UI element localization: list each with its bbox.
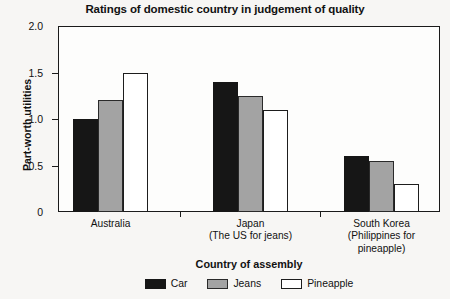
bar-japan-car (213, 82, 238, 212)
chart-title: Ratings of domestic country in judgement… (0, 3, 450, 15)
legend-item-jeans: Jeans (207, 278, 261, 289)
legend-label: Pineapple (307, 278, 353, 289)
legend-swatch-jeans (207, 279, 228, 289)
chart-legend: CarJeansPineapple (58, 278, 440, 289)
x-tick-mark (320, 212, 321, 217)
legend-label: Car (171, 278, 188, 289)
x-group-label-sub: (Philippines for (322, 230, 442, 242)
x-group-label-sub: pineapple) (322, 243, 442, 255)
x-axis-title: Country of assembly (58, 258, 440, 270)
bar-south-korea-jeans (369, 161, 394, 212)
legend-swatch-pineapple (281, 279, 302, 289)
x-group-label-south-korea: South Korea(Philippines forpineapple) (322, 218, 442, 255)
bar-japan-pineapple (263, 110, 288, 212)
legend-swatch-car (145, 279, 166, 289)
legend-label: Jeans (233, 278, 261, 289)
bar-australia-car (73, 119, 98, 212)
bar-south-korea-car (344, 156, 369, 212)
x-group-label-japan: Japan(The US for jeans) (191, 218, 311, 243)
y-tick-label: 2.0 (28, 20, 43, 32)
plot-area (58, 26, 440, 212)
y-axis-title: Part-worth utilities (21, 55, 33, 195)
bar-south-korea-pineapple (394, 184, 419, 212)
legend-item-car: Car (145, 278, 188, 289)
x-group-label-main: South Korea (353, 218, 410, 229)
y-tick-label: 0 (37, 206, 43, 218)
x-tick-mark (180, 212, 181, 217)
x-group-label-main: Japan (237, 218, 265, 229)
x-group-label-main: Australia (91, 218, 131, 229)
bar-japan-jeans (238, 96, 263, 212)
bar-chart-figure: Ratings of domestic country in judgement… (0, 0, 450, 299)
legend-item-pineapple: Pineapple (281, 278, 353, 289)
bar-australia-jeans (98, 100, 123, 212)
bar-australia-pineapple (123, 73, 148, 213)
x-group-label-australia: Australia (51, 218, 171, 230)
x-group-label-sub: (The US for jeans) (191, 230, 311, 242)
